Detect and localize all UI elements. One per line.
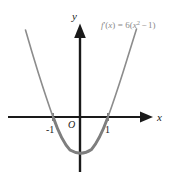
eq-close-paren: ) [112,20,115,30]
y-axis-arrow-icon [74,24,86,39]
function-equation-label: f'(x)=6(x2−1) [101,19,156,30]
coordinate-plane: y x O -1 1 f'(x)=6(x2−1) [0,0,175,185]
x-tick-label-neg-one: -1 [46,124,54,135]
eq-group-close: ) [153,20,156,30]
y-axis-label: y [71,10,77,22]
eq-minus: − [141,20,146,30]
x-axis-label: x [156,111,162,123]
x-axis-arrow-icon [140,112,153,123]
eq-equals: = [118,20,123,30]
origin-label: O [68,119,75,130]
graph-figure: y x O -1 1 f'(x)=6(x2−1) [0,0,175,185]
eq-exponent: 2 [137,19,140,26]
x-tick-label-pos-one: 1 [105,124,110,135]
